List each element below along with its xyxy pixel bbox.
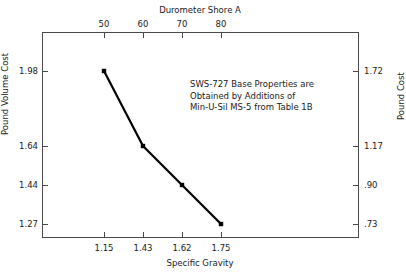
tick-label-left: 1.98 [11, 66, 38, 76]
tick-label-right: .90 [364, 180, 391, 190]
right-axis-title: Pound Cost [396, 72, 406, 120]
tick-label-left: 1.64 [11, 141, 38, 151]
annotation-line-3: Min-U-Sil MS-5 from Table 1B [190, 102, 314, 114]
annotation-line-2: Obtained by Additions of [190, 91, 314, 103]
annotation-line-1: SWS-727 Base Properties are [190, 79, 314, 91]
tick-label-bottom: 1.62 [173, 243, 192, 253]
tick-label-top: 70 [177, 19, 188, 29]
data-point-marker [180, 183, 184, 187]
tick-label-right: 1.72 [364, 66, 391, 76]
tick-label-bottom: 1.15 [95, 243, 114, 253]
annotation-text: SWS-727 Base Properties are Obtained by … [190, 79, 314, 114]
tick-label-bottom: 1.75 [212, 243, 231, 253]
tick-label-right: .73 [364, 219, 391, 229]
tick-label-bottom: 1.43 [134, 243, 153, 253]
data-point-marker [141, 144, 145, 148]
top-axis-title: Durometer Shore A [159, 5, 241, 15]
data-series-layer [42, 32, 359, 238]
tick-label-left: 1.27 [11, 219, 38, 229]
tick-label-left: 1.44 [11, 180, 38, 190]
data-point-marker [102, 69, 106, 73]
data-point-marker [219, 222, 223, 226]
tick-label-top: 50 [99, 19, 110, 29]
tick-label-top: 80 [216, 19, 227, 29]
left-axis-title: Pound Volume Cost [0, 53, 10, 135]
tick-label-top: 60 [138, 19, 149, 29]
tick-label-right: 1.17 [364, 141, 391, 151]
bottom-axis-title: Specific Gravity [167, 258, 234, 268]
